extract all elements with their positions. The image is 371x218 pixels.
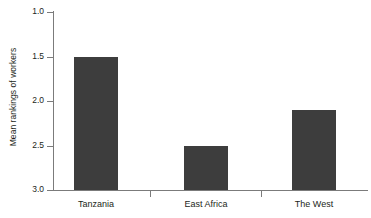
y-axis-tick-label: 1.5 [0, 52, 44, 61]
y-axis-tick-label: 3.0 [0, 185, 44, 194]
x-axis-label-tanzania: Tanzania [62, 199, 130, 209]
y-axis-tick [47, 12, 54, 13]
bar-chart: Mean rankings of workers 1.0 1.5 2.0 2.5… [0, 0, 371, 218]
y-axis-tick [47, 146, 54, 147]
x-axis-tick [150, 191, 151, 197]
y-axis-tick-label: 2.5 [0, 141, 44, 150]
bar-tanzania [74, 57, 118, 191]
x-axis-tick [261, 191, 262, 197]
x-axis-label-the-west: The West [280, 199, 348, 209]
y-axis-tick-label: 2.0 [0, 96, 44, 105]
x-axis-label-east-africa: East Africa [168, 199, 244, 209]
y-axis-tick [47, 101, 54, 102]
y-axis-tick-label: 1.0 [0, 7, 44, 16]
x-axis-line [53, 190, 368, 191]
bar-east-africa [184, 146, 228, 191]
y-axis-tick [47, 57, 54, 58]
bar-the-west [292, 110, 336, 190]
